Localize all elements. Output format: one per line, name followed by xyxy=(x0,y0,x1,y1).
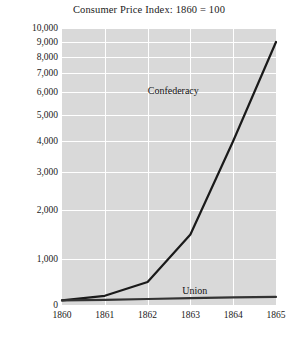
gridline-vertical xyxy=(276,28,277,305)
y-tick-label: 9,000 xyxy=(2,37,58,47)
y-tick-label: 3,000 xyxy=(2,167,58,177)
x-tick-label: 1863 xyxy=(181,310,200,320)
y-tick-label: 7,000 xyxy=(2,68,58,78)
chart-figure: Consumer Price Index: 1860 = 100 01,0002… xyxy=(0,0,298,347)
series-label-union: Union xyxy=(182,284,207,295)
x-tick-label: 1860 xyxy=(53,310,72,320)
y-tick-label: 0 xyxy=(2,300,58,310)
y-tick-label: 4,000 xyxy=(2,136,58,146)
plot-area: ConfederacyUnion xyxy=(62,28,276,305)
x-tick-label: 1865 xyxy=(267,310,286,320)
y-axis: 01,0002,0003,0004,0005,0006,0007,0008,00… xyxy=(0,28,58,305)
y-tick-label: 10,000 xyxy=(2,23,58,33)
x-tick-label: 1861 xyxy=(95,310,114,320)
y-tick-label: 8,000 xyxy=(2,52,58,62)
series-line-confederacy xyxy=(62,42,276,300)
series-label-confederacy: Confederacy xyxy=(148,85,199,96)
x-axis: 186018611862186318641865 xyxy=(0,310,298,330)
x-tick-label: 1864 xyxy=(224,310,243,320)
chart-title: Consumer Price Index: 1860 = 100 xyxy=(0,4,298,15)
x-tick-label: 1862 xyxy=(138,310,157,320)
y-tick-label: 2,000 xyxy=(2,205,58,215)
series-lines xyxy=(62,28,276,305)
y-tick-label: 5,000 xyxy=(2,110,58,120)
y-tick-label: 6,000 xyxy=(2,87,58,97)
y-tick-label: 1,000 xyxy=(2,254,58,264)
